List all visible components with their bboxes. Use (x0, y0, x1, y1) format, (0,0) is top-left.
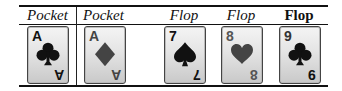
card-seven-of-spades: 7 7 (164, 26, 206, 84)
card-ace-of-clubs: A A (27, 26, 69, 84)
card-rank-bottom: 9 (308, 67, 316, 83)
header-flop-1: Flop (160, 7, 208, 24)
card-eight-of-hearts: 8 8 (221, 26, 263, 84)
header-flop-3: Flop (275, 7, 323, 24)
column-divider (76, 7, 77, 85)
header-pocket-2: Pocket (79, 7, 143, 24)
card-rank-bottom: A (111, 67, 121, 83)
table-bottom-rule (19, 85, 328, 87)
heart-icon (230, 43, 254, 69)
card-ace-of-diamonds: A A (84, 26, 126, 84)
card-nine-of-clubs: 9 9 (279, 26, 321, 84)
table-header-rule (19, 24, 328, 25)
card-rank-bottom: A (54, 67, 64, 83)
header-flop-2: Flop (217, 7, 265, 24)
card-rank: 8 (226, 28, 234, 44)
card-rank-bottom: 8 (250, 67, 258, 83)
card-rank-bottom: 7 (193, 67, 201, 83)
header-pocket-1: Pocket (19, 7, 76, 24)
